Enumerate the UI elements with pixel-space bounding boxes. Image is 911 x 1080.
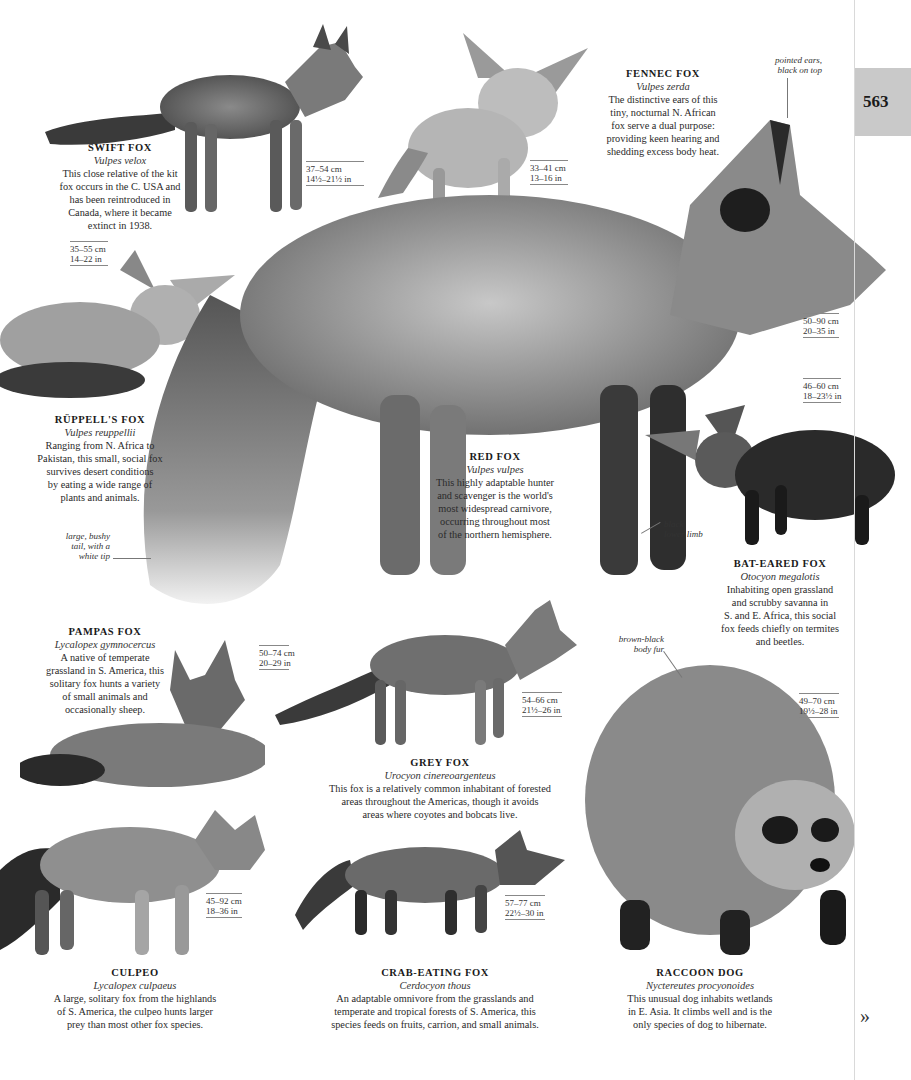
annotation-fur: brown-blackbody fur bbox=[606, 634, 664, 654]
species-latin-name: Cerdocyon thous bbox=[315, 979, 555, 992]
encyclopedia-page: SWIFT FOX Vulpes velox This close relati… bbox=[0, 0, 855, 1080]
species-description: A large, solitary fox from the highlands… bbox=[30, 992, 240, 1031]
annotation-leader bbox=[787, 78, 788, 118]
species-latin-name: Vulpes reuppellii bbox=[0, 426, 200, 439]
entry-fennec-fox: FENNEC FOX Vulpes zerda The distinctive … bbox=[587, 67, 739, 158]
entry-bat-eared-fox: BAT-EARED FOX Otocyon megalotis Inhabiti… bbox=[720, 557, 840, 648]
species-name: RÜPPELL'S FOX bbox=[0, 413, 200, 426]
page-number-tab: 563 bbox=[855, 68, 911, 136]
entry-pampas-fox: PAMPAS FOX Lycalopex gymnocercus A nativ… bbox=[30, 625, 180, 716]
size-bat-eared-fox: 46–60 cm18–23½ in bbox=[803, 378, 841, 403]
species-latin-name: Lycalopex culpaeus bbox=[30, 979, 240, 992]
size-crab-eating-fox: 57–77 cm22½–30 in bbox=[505, 895, 545, 920]
size-raccoon-dog: 49–70 cm19½–28 in bbox=[799, 693, 839, 718]
species-description: This unusual dog inhabits wetlandsin E. … bbox=[615, 992, 785, 1031]
species-name: RED FOX bbox=[420, 450, 570, 463]
species-name: FENNEC FOX bbox=[587, 67, 739, 80]
size-red-fox: 50–90 cm20–35 in bbox=[803, 313, 839, 338]
species-name: CULPEO bbox=[30, 966, 240, 979]
entry-swift-fox: SWIFT FOX Vulpes velox This close relati… bbox=[5, 141, 235, 232]
annotation-ears: pointed ears,black on top bbox=[762, 55, 822, 75]
species-latin-name: Vulpes vulpes bbox=[420, 463, 570, 476]
species-name: CRAB-EATING FOX bbox=[315, 966, 555, 979]
entry-crab-eating-fox: CRAB-EATING FOX Cerdocyon thous An adapt… bbox=[315, 966, 555, 1031]
species-name: BAT-EARED FOX bbox=[720, 557, 840, 570]
species-description: Ranging from N. Africa toPakistan, this … bbox=[0, 439, 200, 504]
size-fennec-fox: 33–41 cm13–16 in bbox=[530, 160, 568, 185]
size-grey-fox: 54–66 cm21½–26 in bbox=[522, 692, 562, 717]
annotation-leader bbox=[113, 558, 151, 559]
species-name: GREY FOX bbox=[320, 756, 560, 769]
next-page-button[interactable]: » bbox=[860, 1005, 870, 1028]
size-ruppells-fox: 35–55 cm14–22 in bbox=[70, 241, 108, 266]
culpeo-image bbox=[0, 810, 270, 960]
grey-fox-image bbox=[275, 600, 580, 750]
species-description: This highly adaptable hunterand scavenge… bbox=[420, 476, 570, 541]
entry-grey-fox: GREY FOX Urocyon cinereoargenteus This f… bbox=[320, 756, 560, 821]
species-name: SWIFT FOX bbox=[5, 141, 235, 154]
species-latin-name: Nyctereutes procyonoides bbox=[615, 979, 785, 992]
entry-red-fox: RED FOX Vulpes vulpes This highly adapta… bbox=[420, 450, 570, 541]
annotation-limb: blacklower limb bbox=[664, 519, 703, 539]
species-latin-name: Urocyon cinereoargenteus bbox=[320, 769, 560, 782]
species-description: The distinctive ears of thistiny, noctur… bbox=[587, 93, 739, 158]
crab-eating-fox-image bbox=[295, 830, 570, 940]
entry-ruppells-fox: RÜPPELL'S FOX Vulpes reuppellii Ranging … bbox=[0, 413, 200, 504]
species-latin-name: Vulpes velox bbox=[5, 154, 235, 167]
species-latin-name: Otocyon megalotis bbox=[720, 570, 840, 583]
entry-raccoon-dog: RACCOON DOG Nyctereutes procyonoides Thi… bbox=[615, 966, 785, 1031]
entry-culpeo: CULPEO Lycalopex culpaeus A large, solit… bbox=[30, 966, 240, 1031]
species-description: An adaptable omnivore from the grassland… bbox=[315, 992, 555, 1031]
species-description: Inhabiting open grasslandand scrubby sav… bbox=[720, 583, 840, 648]
species-description: This close relative of the kitfox occurs… bbox=[5, 167, 235, 232]
page-margin-divider bbox=[854, 0, 855, 1080]
species-latin-name: Lycalopex gymnocercus bbox=[30, 638, 180, 651]
species-name: PAMPAS FOX bbox=[30, 625, 180, 638]
species-description: This fox is a relatively common inhabita… bbox=[320, 782, 560, 821]
page-number: 563 bbox=[863, 92, 889, 112]
annotation-tail: large, bushytail, with awhite tip bbox=[60, 531, 110, 561]
species-name: RACCOON DOG bbox=[615, 966, 785, 979]
size-swift-fox: 37–54 cm14½–21½ in bbox=[306, 161, 364, 186]
size-culpeo: 45–92 cm18–36 in bbox=[206, 893, 242, 918]
species-description: A native of temperategrassland in S. Ame… bbox=[30, 651, 180, 716]
size-pampas-fox: 50–74 cm20–29 in bbox=[259, 645, 289, 670]
species-latin-name: Vulpes zerda bbox=[587, 80, 739, 93]
